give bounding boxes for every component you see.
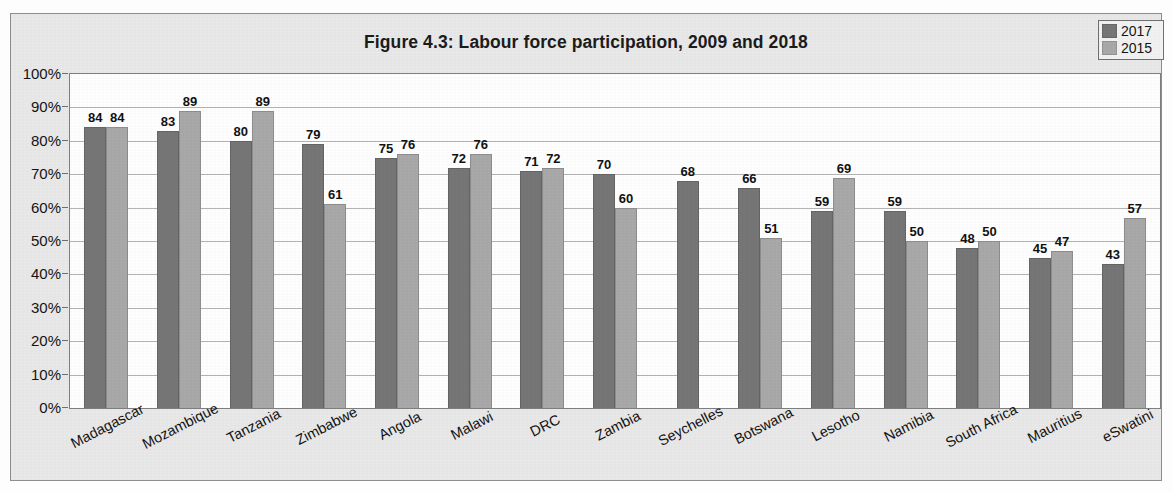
bar-value-label: 89 <box>183 95 197 108</box>
y-axis-tick-mark <box>62 106 68 107</box>
y-axis-tick-mark <box>62 307 68 308</box>
y-axis-tick-label: 0% <box>39 399 61 416</box>
bar-malawi-2015: 76 <box>470 154 492 408</box>
bar-value-label: 72 <box>546 152 560 165</box>
x-axis-cell: South Africa <box>943 412 1016 493</box>
legend-label: 2015 <box>1121 41 1152 55</box>
y-axis-tick-mark <box>62 140 68 141</box>
legend-item-2017: 2017 <box>1102 23 1160 39</box>
x-axis-tick-label: Zambia <box>593 407 643 443</box>
bar-mozambique-2017: 83 <box>157 131 179 408</box>
bar-tanzania-2017: 80 <box>230 141 252 408</box>
bar-south-africa-2015: 50 <box>978 241 1000 408</box>
y-axis-tick-mark <box>62 173 68 174</box>
bar-value-label: 50 <box>982 225 996 238</box>
bar-group: 7172 <box>506 74 579 408</box>
bar-value-label: 79 <box>306 128 320 141</box>
bar-mauritius-2015: 47 <box>1051 251 1073 408</box>
x-axis-tick-label: Malawi <box>448 408 495 443</box>
bar-value-label: 68 <box>680 165 694 178</box>
bar-group: 8089 <box>215 74 288 408</box>
bar-group: 8484 <box>70 74 143 408</box>
legend-swatch-icon <box>1102 41 1117 55</box>
bar-eswatini-2015: 57 <box>1124 218 1146 408</box>
x-axis-tick-label: Lesotho <box>809 407 862 445</box>
bar-value-label: 71 <box>524 155 538 168</box>
x-axis-cell: Namibia <box>870 412 943 493</box>
bar-zimbabwe-2015: 61 <box>324 204 346 408</box>
chart-title: Figure 4.3: Labour force participation, … <box>11 32 1161 53</box>
bar-value-label: 48 <box>960 232 974 245</box>
legend-label: 2017 <box>1121 24 1152 38</box>
bar-value-label: 60 <box>619 192 633 205</box>
x-axis-tick-label: Namibia <box>882 406 937 444</box>
bar-group: 7276 <box>433 74 506 408</box>
bar-eswatini-2017: 43 <box>1102 264 1124 408</box>
figure-container: Figure 4.3: Labour force participation, … <box>0 0 1173 493</box>
x-axis: MadagascarMozambiqueTanzaniaZimbabweAngo… <box>69 412 1161 493</box>
y-axis-tick-label: 90% <box>31 98 61 115</box>
x-axis-cell: Lesotho <box>797 412 870 493</box>
bar-value-label: 47 <box>1055 235 1069 248</box>
x-axis-cell: eSwatini <box>1088 412 1161 493</box>
y-axis-tick-mark <box>62 374 68 375</box>
bar-group: 5969 <box>797 74 870 408</box>
x-axis-tick-label: eSwatini <box>1099 406 1155 445</box>
y-axis-tick-mark <box>62 273 68 274</box>
bar-value-label: 76 <box>473 138 487 151</box>
y-axis-tick-mark <box>62 340 68 341</box>
bar-lesotho-2017: 59 <box>811 211 833 408</box>
x-axis-cell: Tanzania <box>215 412 288 493</box>
y-axis-tick-mark <box>62 73 68 74</box>
bar-mozambique-2015: 89 <box>179 111 201 408</box>
bar-value-label: 84 <box>110 111 124 124</box>
bar-group: 4357 <box>1087 74 1160 408</box>
bar-group: 8389 <box>143 74 216 408</box>
bar-namibia-2017: 59 <box>884 211 906 408</box>
y-axis-tick-mark <box>62 240 68 241</box>
bar-value-label: 80 <box>233 125 247 138</box>
bar-zambia-2017: 70 <box>593 174 615 408</box>
bar-group: 5950 <box>869 74 942 408</box>
chart-legend: 20172015 <box>1098 20 1164 60</box>
bar-value-label: 50 <box>909 225 923 238</box>
bar-value-label: 61 <box>328 188 342 201</box>
y-axis-tick-label: 70% <box>31 165 61 182</box>
x-axis-tick-label: DRC <box>528 411 563 440</box>
y-axis-tick-label: 10% <box>31 365 61 382</box>
x-axis-cell: Mauritius <box>1015 412 1088 493</box>
y-axis-tick-label: 30% <box>31 298 61 315</box>
bar-value-label: 57 <box>1128 202 1142 215</box>
bar-mauritius-2017: 45 <box>1029 258 1051 408</box>
bar-value-label: 75 <box>379 142 393 155</box>
x-axis-tick-label: Mauritius <box>1024 405 1084 446</box>
x-axis-tick-label: Botswana <box>731 404 795 447</box>
bar-namibia-2015: 50 <box>906 241 928 408</box>
bar-seychelles-2017: 68 <box>677 181 699 408</box>
x-axis-tick-label: Tanzania <box>224 405 283 446</box>
y-axis-tick-label: 20% <box>31 332 61 349</box>
bar-value-label: 83 <box>161 115 175 128</box>
bar-botswana-2017: 66 <box>738 188 760 408</box>
bar-value-label: 66 <box>742 172 756 185</box>
bar-botswana-2015: 51 <box>760 238 782 408</box>
bar-madagascar-2017: 84 <box>84 127 106 408</box>
bar-groups: 8484838980897961757672767172706068665159… <box>70 74 1160 408</box>
bar-zimbabwe-2017: 79 <box>302 144 324 408</box>
y-axis-tick-label: 60% <box>31 198 61 215</box>
bar-group: 7961 <box>288 74 361 408</box>
bar-group: 7060 <box>579 74 652 408</box>
y-axis-tick-mark <box>62 207 68 208</box>
chart-frame: Figure 4.3: Labour force participation, … <box>10 13 1162 481</box>
x-axis-cell: Madagascar <box>69 412 142 493</box>
y-axis-tick-label: 100% <box>23 65 61 82</box>
plot-area: 8484838980897961757672767172706068665159… <box>69 73 1161 409</box>
legend-swatch-icon <box>1102 24 1117 38</box>
x-axis-cell: Angola <box>360 412 433 493</box>
legend-item-2015: 2015 <box>1102 40 1160 56</box>
x-axis-cell: Mozambique <box>142 412 215 493</box>
bar-value-label: 84 <box>88 111 102 124</box>
bar-value-label: 45 <box>1033 242 1047 255</box>
x-axis-cell: Seychelles <box>651 412 724 493</box>
bar-value-label: 51 <box>764 222 778 235</box>
